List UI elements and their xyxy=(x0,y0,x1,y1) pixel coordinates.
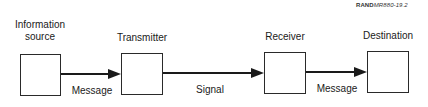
edge-label-message-2: Message xyxy=(313,83,361,95)
arrowhead-icon xyxy=(251,68,264,78)
arrow-signal xyxy=(163,68,264,78)
edge-label-message-1: Message xyxy=(68,85,116,97)
edge-label-signal: Signal xyxy=(190,84,230,96)
arrow-message-1 xyxy=(61,69,121,79)
arrowhead-icon xyxy=(354,67,367,77)
arrow-message-2 xyxy=(306,67,367,77)
arrowhead-icon xyxy=(108,69,121,79)
